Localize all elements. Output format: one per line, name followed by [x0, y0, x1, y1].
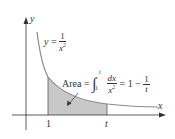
- den-exp: 2: [63, 42, 66, 48]
- curve-label-den: x2: [59, 42, 66, 53]
- area-text: Area =: [62, 78, 90, 89]
- rhs-den: t: [145, 85, 148, 94]
- integrand: dx x2: [107, 74, 118, 96]
- curve-label-eq: =: [51, 36, 57, 47]
- area-label: Area = ∫ t 1 dx x2 = 1 − 1 t: [62, 74, 150, 96]
- curve-label-lhs: y: [44, 36, 48, 47]
- tick-label-1: 1: [46, 119, 51, 129]
- y-axis-arrow-icon: [24, 17, 29, 24]
- integrand-num: dx: [107, 74, 118, 84]
- x-axis-arrow-icon: [159, 113, 166, 118]
- tick-label-t: t: [105, 119, 108, 129]
- curve-label-num: 1: [59, 32, 66, 42]
- area-rhs: = 1 −: [120, 78, 141, 89]
- integral-lower: 1: [95, 85, 98, 91]
- integral-upper: t: [99, 69, 101, 75]
- integral: ∫ t 1: [92, 74, 104, 90]
- y-axis-label: y: [30, 14, 34, 24]
- curve-label: y = 1 x2: [44, 32, 66, 54]
- x-axis-label: x: [158, 101, 162, 111]
- rhs-fraction: 1 t: [143, 75, 150, 95]
- integrand-den-exp: 2: [112, 84, 115, 90]
- curve-label-fraction: 1 x2: [59, 32, 66, 54]
- plot-canvas: [0, 0, 175, 139]
